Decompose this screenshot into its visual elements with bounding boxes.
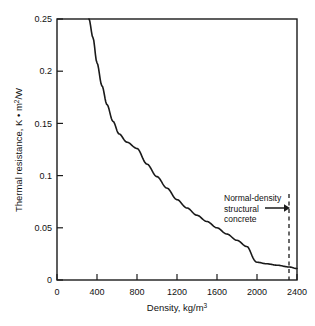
y-tick-label-0_25: 0.25 — [34, 14, 52, 24]
x-tick-label-0: 0 — [54, 287, 59, 297]
y-axis-title: Thermal resistance, K • m2/W — [13, 88, 25, 212]
chart-figure: 0 0.05 0.1 0.15 0.2 0.25 0 400 800 1200 … — [0, 0, 315, 326]
x-tick-label-400: 400 — [89, 287, 104, 297]
annotation-line-3: concrete — [224, 214, 257, 224]
x-axis-title: Density, kg/m3 — [147, 302, 208, 314]
thermal-resistance-vs-density-chart: 0 0.05 0.1 0.15 0.2 0.25 0 400 800 1200 … — [0, 0, 315, 326]
y-tick-label-0: 0 — [47, 275, 52, 285]
y-tick-label-0_2: 0.2 — [39, 66, 52, 76]
x-tick-label-2000: 2000 — [247, 287, 267, 297]
x-tick-label-2400: 2400 — [287, 287, 307, 297]
y-tick-label-0_15: 0.15 — [34, 119, 52, 129]
annotation-line-1: Normal-density — [224, 193, 282, 203]
annotation-line-2: structural — [224, 204, 259, 214]
y-tick-label-0_05: 0.05 — [34, 223, 52, 233]
x-tick-label-1600: 1600 — [207, 287, 227, 297]
x-axis-title-superscript: 3 — [204, 302, 208, 309]
y-axis-title-part2: /W — [13, 88, 24, 100]
y-tick-label-0_1: 0.1 — [39, 171, 52, 181]
x-tick-label-800: 800 — [129, 287, 144, 297]
x-axis-title-main: Density, kg/m — [147, 302, 204, 313]
x-tick-label-1200: 1200 — [167, 287, 187, 297]
y-axis-title-part1: Thermal resistance, K • m — [13, 103, 24, 212]
